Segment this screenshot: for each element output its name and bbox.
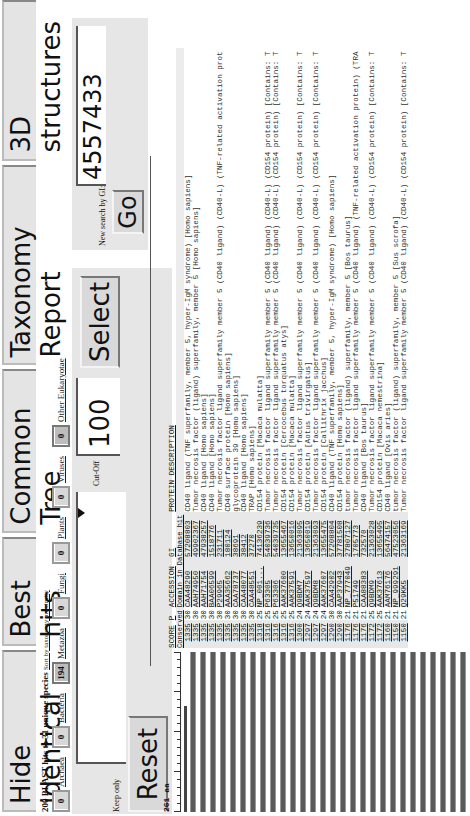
accession-link[interactable]: AAP37943 bbox=[336, 557, 344, 607]
tab-common-tree[interactable]: Common Tree bbox=[2, 370, 36, 533]
score-cell[interactable]: 1172 bbox=[368, 620, 376, 648]
accession-link[interactable]: AAK37591 bbox=[288, 557, 296, 607]
hit-bar[interactable] bbox=[260, 652, 266, 812]
score-cell[interactable]: 1335 bbox=[216, 620, 224, 648]
score-cell[interactable]: 1290 bbox=[328, 620, 336, 648]
keep-only-select[interactable] bbox=[76, 492, 126, 764]
gi-link[interactable]: 38691 bbox=[232, 512, 240, 557]
hit-bar[interactable] bbox=[370, 652, 376, 812]
gi-link[interactable]: 47523056 bbox=[392, 512, 400, 557]
gi-link[interactable]: 74136239 bbox=[256, 512, 264, 557]
score-cell[interactable]: 1297 bbox=[304, 620, 312, 648]
cutoff-input[interactable]: 100 bbox=[76, 378, 120, 456]
score-cell[interactable]: 1172 bbox=[376, 620, 384, 648]
hit-bar[interactable] bbox=[280, 652, 286, 812]
hit-bar[interactable] bbox=[270, 652, 276, 812]
metazoa-count-button[interactable]: 194 bbox=[52, 662, 70, 684]
score-cell[interactable]: 1316 bbox=[272, 620, 280, 648]
gi-link[interactable]: 13655475 bbox=[320, 512, 328, 557]
accession-link[interactable]: AAM76176 bbox=[384, 557, 392, 607]
gi-search-input[interactable]: 4557433 bbox=[76, 26, 106, 186]
hit-bar[interactable] bbox=[320, 652, 326, 812]
score-cell[interactable]: 1335 bbox=[224, 620, 232, 648]
select-button[interactable]: Select bbox=[80, 276, 120, 368]
tab-best-hits[interactable]: Best hits bbox=[2, 537, 36, 646]
gi-link[interactable]: 1705773 bbox=[352, 512, 360, 557]
gi-link[interactable]: 180124 bbox=[224, 512, 232, 557]
tab-taxonomy-report[interactable]: Taxonomy Report bbox=[2, 165, 36, 366]
dropdown-arrow-icon[interactable] bbox=[78, 508, 85, 518]
other-eukaryotae-link[interactable]: Other Eukaryotae bbox=[56, 358, 66, 422]
accession-link[interactable]: AAK37597 bbox=[304, 557, 312, 607]
score-cell[interactable]: 1335 bbox=[232, 620, 240, 648]
accession-link[interactable]: NP_777049 bbox=[344, 557, 352, 607]
hit-bar[interactable] bbox=[360, 652, 366, 812]
gi-link[interactable]: 37270 bbox=[248, 512, 256, 557]
archaea-link[interactable]: Archaea bbox=[56, 757, 66, 787]
gi-link[interactable]: 21363095 bbox=[296, 512, 304, 557]
fungi-count-button[interactable]: 0 bbox=[52, 597, 70, 619]
gi-link[interactable]: 13650019 bbox=[304, 512, 312, 557]
gi-link[interactable]: 732570 bbox=[360, 512, 368, 557]
hit-bar[interactable] bbox=[330, 652, 336, 812]
score-cell[interactable]: 1160 bbox=[384, 620, 392, 648]
gi-link[interactable]: 57208803 bbox=[184, 512, 192, 557]
hit-bar[interactable] bbox=[250, 652, 256, 812]
score-cell[interactable]: 1297 bbox=[320, 620, 328, 648]
hit-bar[interactable] bbox=[340, 652, 346, 812]
metazoa-link[interactable]: Metazoa bbox=[56, 628, 66, 659]
accession-link[interactable]: Q29KK5 bbox=[400, 557, 408, 607]
gi-link[interactable]: 13655495 bbox=[376, 512, 384, 557]
bacteria-link[interactable]: Bacteria bbox=[56, 693, 66, 723]
score-cell[interactable]: 1297 bbox=[312, 620, 320, 648]
accession-link[interactable]: NP_999291 bbox=[392, 557, 400, 607]
viruses-count-button[interactable]: 0 bbox=[52, 486, 70, 508]
accession-link[interactable]: AAH71754 bbox=[200, 557, 208, 607]
hit-bar[interactable] bbox=[310, 652, 316, 812]
accession-link[interactable]: AAA35662 bbox=[224, 557, 232, 607]
accession-link[interactable]: P63305 bbox=[264, 557, 272, 607]
viruses-link[interactable]: Viruses bbox=[56, 456, 66, 483]
hit-bar[interactable] bbox=[300, 652, 306, 812]
accession-link[interactable]: P51749 bbox=[352, 557, 360, 607]
gi-link[interactable]: 21363028 bbox=[368, 512, 376, 557]
score-cell[interactable]: 1335 bbox=[184, 620, 192, 648]
hit-bar[interactable] bbox=[450, 652, 456, 812]
accession-link[interactable]: Q9BDM8 bbox=[312, 557, 320, 607]
accession-link[interactable]: CAA42902 bbox=[328, 557, 336, 607]
gi-link[interactable]: 57208804 bbox=[328, 512, 336, 557]
score-cell[interactable]: 1335 bbox=[208, 620, 216, 648]
hit-bar[interactable] bbox=[390, 652, 396, 812]
accession-link[interactable]: AAK37613 bbox=[376, 557, 384, 607]
hit-bar[interactable] bbox=[200, 652, 206, 812]
hit-bar[interactable] bbox=[220, 652, 226, 812]
hit-bar[interactable] bbox=[210, 652, 216, 812]
accession-link[interactable]: CAA48077 bbox=[240, 557, 248, 607]
gi-link[interactable]: 56474157 bbox=[384, 512, 392, 557]
gi-link[interactable]: 21363169 bbox=[400, 512, 408, 557]
hit-bar[interactable] bbox=[430, 652, 436, 812]
other-eukaryotae-count-button[interactable]: 0 bbox=[52, 425, 70, 447]
gi-link[interactable]: 54039736 bbox=[264, 512, 272, 557]
hit-bar[interactable] bbox=[400, 652, 406, 812]
accession-link[interactable]: AAK37600 bbox=[280, 557, 288, 607]
accession-link[interactable]: NP_001... bbox=[256, 557, 264, 607]
score-cell[interactable]: 1335 bbox=[200, 620, 208, 648]
col-gi[interactable]: GI bbox=[168, 512, 176, 557]
hit-bar[interactable] bbox=[230, 652, 236, 812]
score-cell[interactable]: 1150 bbox=[400, 620, 408, 648]
hit-bar[interactable] bbox=[460, 652, 466, 812]
accession-link[interactable]: CAA48290 bbox=[184, 557, 192, 607]
accession-link[interactable]: P29965 bbox=[216, 557, 224, 607]
score-cell[interactable]: 1150 bbox=[392, 620, 400, 648]
gi-link[interactable]: 54039735 bbox=[272, 512, 280, 557]
accession-link[interactable]: CAA48551 bbox=[248, 557, 256, 607]
gi-link[interactable]: 38412 bbox=[240, 512, 248, 557]
gi-link[interactable]: 231711 bbox=[216, 512, 224, 557]
hit-bar[interactable] bbox=[410, 652, 416, 812]
hit-bar[interactable] bbox=[420, 652, 426, 812]
col-accession[interactable]: ACCESSION bbox=[168, 557, 176, 607]
score-cell[interactable]: 1290 bbox=[336, 620, 344, 648]
gi-link[interactable]: 13655467 bbox=[280, 512, 288, 557]
score-cell[interactable]: 1176 bbox=[344, 620, 352, 648]
